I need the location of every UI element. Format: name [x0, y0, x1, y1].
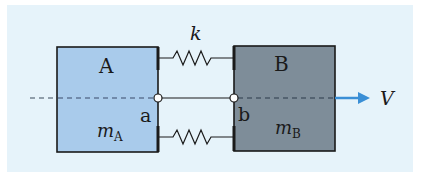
- point-b-pin: [230, 94, 238, 102]
- mass-a-subscript: A: [113, 130, 123, 144]
- mass-a-symbol: m: [97, 120, 114, 141]
- velocity-arrow-head: [358, 92, 370, 104]
- point-a-pin: [154, 94, 162, 102]
- mass-b-subscript: B: [292, 127, 301, 141]
- spring-constant-label: k: [190, 22, 202, 44]
- mass-b-symbol: m: [275, 117, 292, 138]
- mass-spring-diagram: A B k a b V m A m B: [0, 0, 421, 187]
- point-b-label: b: [238, 103, 250, 125]
- point-a-label: a: [140, 104, 151, 126]
- velocity-label: V: [380, 87, 396, 109]
- block-a-label: A: [98, 54, 114, 78]
- lower-spring: [158, 130, 234, 144]
- block-b-label: B: [274, 52, 289, 76]
- upper-spring: [158, 51, 234, 65]
